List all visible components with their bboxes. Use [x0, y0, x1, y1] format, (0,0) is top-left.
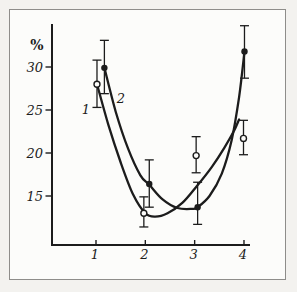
x-tick-label: 3: [190, 247, 198, 262]
y-tick-label: 30: [26, 60, 43, 75]
data-point-filled-circle: [241, 48, 247, 54]
data-point-open-circle: [240, 135, 246, 141]
data-point-open-circle: [193, 153, 199, 159]
curve-label-1: 1: [82, 102, 90, 117]
curve-label-2: 2: [116, 91, 125, 106]
x-tick-label: 2: [139, 247, 148, 262]
data-point-open-circle: [94, 81, 100, 87]
data-point-open-circle: [141, 210, 147, 216]
y-tick-label: 20: [25, 146, 43, 161]
x-tick-label: 1: [91, 247, 99, 262]
data-point-filled-circle: [146, 181, 152, 187]
scanned-page: % 30252015123412: [0, 0, 297, 292]
curve-2: [104, 52, 244, 210]
y-tick-label: 15: [26, 189, 43, 204]
y-tick-label: 25: [25, 103, 43, 118]
chart-canvas: 30252015123412: [0, 0, 297, 292]
data-point-filled-circle: [194, 204, 200, 210]
data-point-filled-circle: [101, 65, 107, 71]
x-tick-label: 4: [238, 247, 247, 262]
